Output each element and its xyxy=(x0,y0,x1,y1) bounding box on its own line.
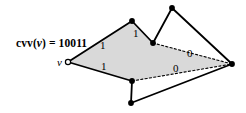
edge-bottom-mid-to-right-weight: 0 xyxy=(173,63,179,74)
graph-figure: cvv(v) = 10011 v 11100 xyxy=(0,0,246,113)
vertex-top-peak xyxy=(129,18,135,24)
edge-bottom-mid-to-bottom xyxy=(131,81,132,103)
shaded-region-layer xyxy=(68,21,232,81)
edge-top-peak-to-valley-weight: 1 xyxy=(133,28,139,39)
vertex-bottom-mid xyxy=(129,78,135,84)
vertex-right xyxy=(229,61,235,67)
vertex-right-peak xyxy=(169,5,175,11)
vertex-v-label: v xyxy=(57,57,62,68)
shaded-polygon xyxy=(68,21,232,81)
vertex-v xyxy=(65,59,70,64)
cvv-annotation-variable: v xyxy=(37,37,42,49)
edge-valley-to-right-weight: 0 xyxy=(187,48,193,59)
edge-valley-to-right-peak xyxy=(153,8,172,43)
edge-v-to-bottom-mid-weight: 1 xyxy=(101,61,107,72)
graph-canvas xyxy=(0,0,246,113)
edge-v-to-top-peak-weight: 1 xyxy=(100,40,106,51)
cvv-annotation: cvv(v) = 10011 xyxy=(16,38,87,50)
vertex-valley xyxy=(150,40,156,46)
cvv-annotation-value: 10011 xyxy=(59,37,88,49)
vertex-bottom xyxy=(128,100,134,106)
